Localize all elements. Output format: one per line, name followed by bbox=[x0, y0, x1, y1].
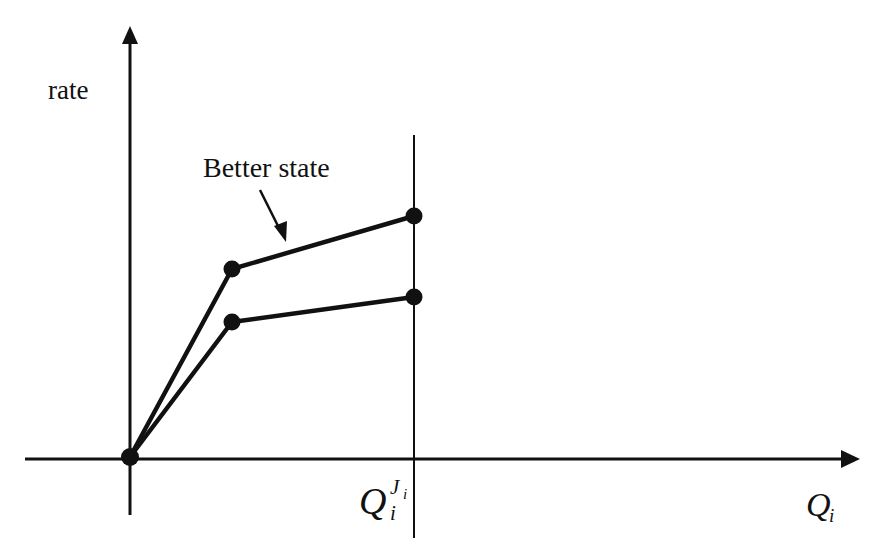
threshold-label-base: Q bbox=[359, 480, 386, 522]
better-state-end-point bbox=[406, 208, 423, 225]
y-axis-label: rate bbox=[48, 75, 88, 105]
better-state-curve bbox=[130, 216, 414, 457]
x-axis-arrow-icon bbox=[841, 450, 860, 468]
origin-point bbox=[121, 448, 139, 466]
better-state-knee-point bbox=[224, 261, 241, 278]
y-axis-arrow-icon bbox=[122, 26, 138, 44]
annotation-label: Better state bbox=[203, 152, 330, 183]
threshold-label-sup: J bbox=[390, 475, 401, 499]
baseline-end-point bbox=[406, 289, 423, 306]
x-axis-label-sub: i bbox=[829, 505, 834, 526]
annotation-arrow bbox=[260, 190, 280, 230]
threshold-label-sub: i bbox=[390, 501, 396, 525]
threshold-label-sup-sub: i bbox=[403, 486, 407, 502]
x-axis-label-base: Q bbox=[806, 486, 831, 523]
baseline-knee-point bbox=[224, 314, 241, 331]
rate-vs-queue-diagram: rate Better state Q i J i Q i bbox=[0, 0, 882, 555]
